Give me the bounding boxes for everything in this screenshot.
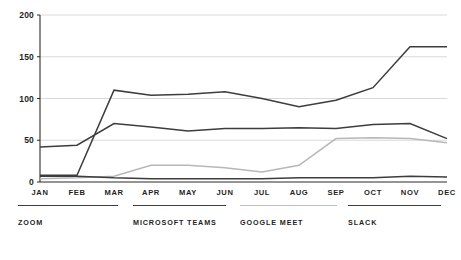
x-axis-tick-label: MAR [104, 188, 123, 197]
x-axis-tick-label: APR [142, 188, 160, 197]
x-axis-tick-label: OCT [364, 188, 382, 197]
x-axis-tick-label: FEB [69, 188, 86, 197]
x-axis-tick-label: DEC [438, 188, 456, 197]
chart-canvas: 050100150200JANFEBMARAPRMAYJUNJULAUGSEPO… [0, 0, 461, 205]
plot-area: 050100150200JANFEBMARAPRMAYJUNJULAUGSEPO… [0, 0, 461, 205]
y-axis-tick-label: 50 [24, 135, 34, 145]
legend-swatch-line [18, 205, 118, 206]
x-axis-tick-label: MAY [179, 188, 197, 197]
legend-label: MICROSOFT TEAMS [133, 218, 226, 227]
series-line-zoom [40, 47, 447, 176]
chart-legend: ZOOMMICROSOFT TEAMSGOOGLE MEETSLACK [0, 205, 461, 260]
x-axis-tick-label: SEP [328, 188, 345, 197]
legend-swatch-line [348, 205, 441, 206]
legend-item-zoom[interactable]: ZOOM [18, 205, 118, 227]
legend-label: GOOGLE MEET [240, 218, 337, 227]
legend-label: SLACK [348, 218, 441, 227]
y-axis-tick-label: 0 [29, 177, 34, 187]
series-line-slack [40, 176, 447, 179]
line-chart: 050100150200JANFEBMARAPRMAYJUNJULAUGSEPO… [0, 0, 461, 260]
legend-item-microsoft-teams[interactable]: MICROSOFT TEAMS [133, 205, 226, 227]
y-axis-tick-label: 150 [19, 52, 34, 62]
legend-label: ZOOM [18, 218, 118, 227]
y-axis-tick-label: 100 [19, 94, 34, 104]
x-axis-tick-label: AUG [290, 188, 309, 197]
legend-swatch-line [240, 205, 337, 206]
series-line-google-meet [40, 138, 447, 179]
legend-item-google-meet[interactable]: GOOGLE MEET [240, 205, 337, 227]
x-axis-tick-label: NOV [401, 188, 420, 197]
x-axis-tick-label: JUN [217, 188, 234, 197]
x-axis-tick-label: JAN [32, 188, 49, 197]
legend-item-slack[interactable]: SLACK [348, 205, 441, 227]
series-line-microsoft-teams [40, 124, 447, 147]
legend-swatch-line [133, 205, 226, 206]
x-axis-tick-label: JUL [254, 188, 270, 197]
y-axis-tick-label: 200 [19, 10, 34, 20]
